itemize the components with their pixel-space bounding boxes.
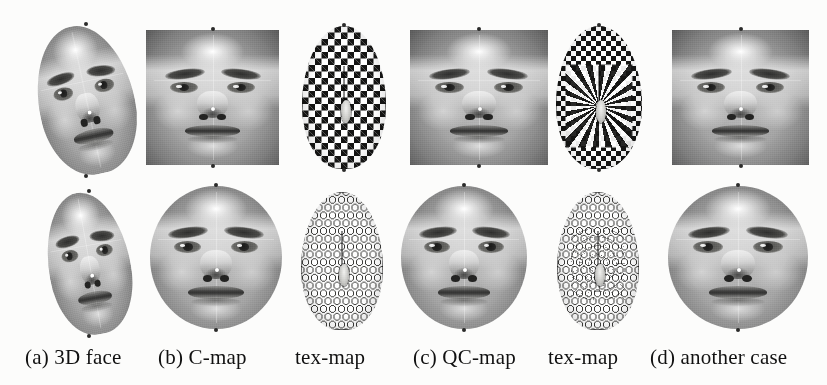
scan-grain: [301, 192, 383, 330]
registration-dot: [477, 27, 481, 31]
registration-dot: [84, 22, 88, 26]
caption-label-5: (d) another case: [650, 345, 787, 370]
tex-map-c-top: [302, 26, 386, 169]
caption-label-0: (a) 3D face: [25, 345, 122, 370]
c-map-top: [146, 30, 279, 165]
scan-grain: [36, 186, 142, 341]
registration-dot: [597, 23, 601, 27]
registration-dot: [342, 168, 346, 172]
registration-dot: [739, 27, 743, 31]
registration-dot: [342, 23, 346, 27]
caption-label-1: (b) C-map: [158, 345, 247, 370]
scan-grain: [150, 186, 282, 329]
figure-caption: (a) 3D face(b) C-maptex-map(c) QC-maptex…: [0, 345, 827, 379]
registration-dot: [214, 328, 218, 332]
3d-face-top: [23, 17, 148, 184]
tex-map-qc-bottom: [557, 192, 639, 330]
scan-grain: [401, 186, 527, 329]
scan-grain: [556, 26, 642, 169]
scan-grain: [146, 30, 279, 165]
3d-face-bottom: [36, 186, 142, 341]
qc-map-top: [410, 30, 548, 165]
registration-dot: [87, 189, 91, 193]
registration-dot: [462, 328, 466, 332]
another-case-bottom: [668, 186, 808, 329]
caption-label-2: tex-map: [295, 345, 365, 370]
scan-grain: [672, 30, 809, 165]
caption-label-3: (c) QC-map: [413, 345, 516, 370]
scan-grain: [557, 192, 639, 330]
scan-grain: [668, 186, 808, 329]
registration-dot: [736, 328, 740, 332]
another-case-top: [672, 30, 809, 165]
c-map-bottom: [150, 186, 282, 329]
registration-dot: [214, 183, 218, 187]
caption-label-4: tex-map: [548, 345, 618, 370]
registration-dot: [477, 164, 481, 168]
qc-map-bottom: [401, 186, 527, 329]
registration-dot: [739, 164, 743, 168]
scan-grain: [302, 26, 386, 169]
figure-panel-grid: [0, 0, 827, 385]
registration-dot: [462, 183, 466, 187]
registration-dot: [597, 168, 601, 172]
registration-dot: [87, 334, 91, 338]
scan-grain: [23, 17, 148, 184]
registration-dot: [211, 164, 215, 168]
tex-map-c-bottom: [301, 192, 383, 330]
registration-dot: [84, 174, 88, 178]
registration-dot: [736, 183, 740, 187]
registration-dot: [211, 27, 215, 31]
scan-grain: [410, 30, 548, 165]
tex-map-qc-top: [556, 26, 642, 169]
